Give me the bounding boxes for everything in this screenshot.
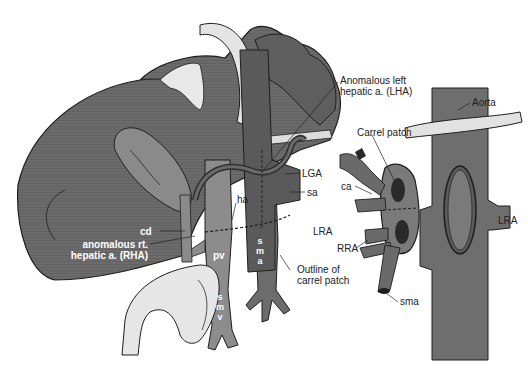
bile-duct bbox=[180, 195, 192, 262]
label-rha-line2: hepatic a. (RHA) bbox=[62, 250, 148, 261]
label-ca: ca bbox=[341, 181, 352, 192]
liver bbox=[18, 26, 341, 280]
label-outline-line2: carrel patch bbox=[297, 275, 349, 286]
label-aorta: Aorta bbox=[472, 97, 496, 108]
label-rha-line1: anomalous rt. bbox=[76, 239, 148, 250]
label-carrel-patch: Carrel patch bbox=[357, 127, 411, 138]
label-lra-right: LRA bbox=[498, 215, 517, 226]
anatomy-figure: Anomalous left hepatic a. (LHA) Aorta Ca… bbox=[0, 0, 528, 374]
label-sa: sa bbox=[307, 187, 318, 198]
label-lha-line2: hepatic a. (LHA) bbox=[340, 86, 412, 97]
label-sma-m: m bbox=[255, 246, 265, 256]
label-ha: ha bbox=[237, 194, 248, 205]
label-smv-s: s bbox=[215, 292, 225, 302]
illustration bbox=[0, 0, 528, 374]
label-rra: RRA bbox=[337, 243, 358, 254]
label-sma: sma bbox=[400, 296, 419, 307]
duodenum bbox=[122, 265, 219, 355]
label-lga: LGA bbox=[302, 168, 322, 179]
label-outline-line1: Outline of bbox=[297, 264, 340, 275]
label-smv-v: v bbox=[215, 312, 225, 322]
label-lra-left: LRA bbox=[313, 226, 332, 237]
label-smv-m: m bbox=[215, 302, 225, 312]
label-pv: pv bbox=[213, 250, 225, 261]
label-sma-s: s bbox=[255, 236, 265, 246]
label-sma-a: a bbox=[255, 256, 265, 266]
rra-vessel bbox=[365, 228, 388, 244]
label-lha-line1: Anomalous left bbox=[340, 75, 406, 86]
label-cd: cd bbox=[140, 226, 152, 237]
